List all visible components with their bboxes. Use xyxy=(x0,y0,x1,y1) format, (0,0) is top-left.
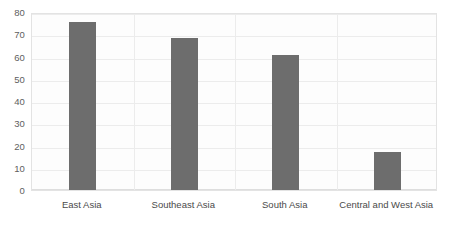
plot-area xyxy=(31,13,437,191)
x-axis-tick-label: Southeast Asia xyxy=(133,200,235,210)
y-axis-tick-label: 60 xyxy=(0,53,25,63)
y-axis-tick-label: 20 xyxy=(0,142,25,152)
x-axis-tick-label: South Asia xyxy=(234,200,336,210)
x-axis: East AsiaSoutheast AsiaSouth AsiaCentral… xyxy=(31,196,437,220)
bar-chart: 01020304050607080 East AsiaSoutheast Asi… xyxy=(0,0,449,225)
y-axis-tick-label: 40 xyxy=(0,97,25,107)
gridline-horizontal xyxy=(32,14,436,15)
bar xyxy=(272,55,299,190)
gridline-vertical xyxy=(235,14,236,190)
y-axis-tick-label: 80 xyxy=(0,8,25,18)
gridline-vertical xyxy=(337,14,338,190)
bar xyxy=(374,152,401,190)
x-axis-tick-label: East Asia xyxy=(31,200,133,210)
y-axis-tick-label: 70 xyxy=(0,30,25,40)
bar xyxy=(69,22,96,190)
y-axis-tick-label: 30 xyxy=(0,119,25,129)
chart-title-remnant xyxy=(0,0,449,6)
bar xyxy=(171,38,198,190)
y-axis: 01020304050607080 xyxy=(0,0,25,225)
y-axis-tick-label: 10 xyxy=(0,164,25,174)
y-axis-tick-label: 50 xyxy=(0,75,25,85)
y-axis-tick-label: 0 xyxy=(0,186,25,196)
x-axis-tick-label: Central and West Asia xyxy=(336,200,438,210)
gridline-vertical xyxy=(134,14,135,190)
